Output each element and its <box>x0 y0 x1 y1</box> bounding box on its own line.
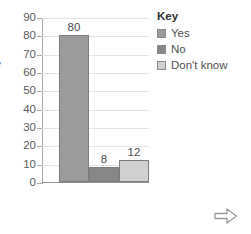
legend-item: Yes <box>157 26 251 41</box>
y-axis-tick-label: 10 <box>12 159 36 171</box>
bar-no <box>89 167 119 182</box>
legend: Key YesNoDon't know <box>157 9 251 74</box>
legend-item-label: No <box>171 42 186 57</box>
y-axis-tick-mark <box>37 110 42 111</box>
legend-item: Don't know <box>157 58 251 73</box>
legend-item-label: Yes <box>171 26 190 41</box>
y-axis-tick-label: 90 <box>12 12 36 24</box>
gridline <box>42 18 149 19</box>
plot-area: 80812 <box>42 18 149 183</box>
y-axis-tick-label: 70 <box>12 49 36 61</box>
y-axis-tick-label: 50 <box>12 85 36 97</box>
y-axis-tick-label: 0 <box>12 177 36 189</box>
y-axis-line <box>42 18 43 184</box>
y-axis-tick-label: 30 <box>12 122 36 134</box>
y-axis-tick-label: 40 <box>12 104 36 116</box>
y-axis-tick-label: 60 <box>12 67 36 79</box>
y-axis-tick-mark <box>37 36 42 37</box>
bar-chart-figure: e 9080706050403020100 80812 Key YesNoDon… <box>0 0 251 234</box>
legend-swatch-icon <box>157 45 166 54</box>
y-axis-tick-label: 20 <box>12 140 36 152</box>
y-axis-tick-mark <box>37 73 42 74</box>
y-axis-tick-mark <box>37 91 42 92</box>
legend-entries: YesNoDon't know <box>157 26 251 73</box>
legend-item-label: Don't know <box>171 58 228 73</box>
y-axis-tick-mark <box>37 128 42 129</box>
legend-item: No <box>157 42 251 57</box>
y-axis-title-clipped: e <box>0 57 7 70</box>
bar-yes <box>59 35 89 182</box>
y-axis-tick-labels: 9080706050403020100 <box>8 0 36 234</box>
bar-value-label: 12 <box>119 146 149 158</box>
y-axis-tick-mark <box>37 165 42 166</box>
y-axis-tick-mark <box>37 146 42 147</box>
bar-value-label: 8 <box>89 153 119 165</box>
legend-swatch-icon <box>157 29 166 38</box>
bar-don-t-know <box>119 160 149 182</box>
bar-value-label: 80 <box>59 21 89 33</box>
x-axis-line <box>42 182 149 183</box>
y-axis-tick-label: 80 <box>12 30 36 42</box>
legend-swatch-icon <box>157 61 166 70</box>
y-axis-tick-mark <box>37 18 42 19</box>
y-axis-tick-mark <box>37 55 42 56</box>
y-axis-tick-mark <box>37 183 42 184</box>
right-arrow-icon <box>214 207 238 225</box>
legend-title: Key <box>157 9 251 23</box>
